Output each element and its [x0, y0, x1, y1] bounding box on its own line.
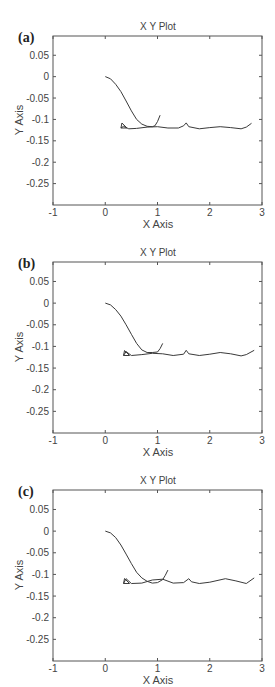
plot-area: -101230.050-0.05-0.1-0.15-0.2-0.25: [0, 0, 275, 687]
x-tick-label: -1: [49, 663, 58, 674]
axes-frame: [53, 490, 262, 661]
y-tick-label: 0: [43, 526, 49, 537]
y-tick-label: -0.05: [26, 547, 49, 558]
x-tick-label: 2: [207, 663, 213, 674]
x-tick-label: 1: [155, 663, 161, 674]
y-tick-label: 0.05: [30, 504, 50, 515]
x-tick-label: 3: [259, 663, 265, 674]
series-line-trajectory-1: [105, 531, 168, 583]
y-tick-label: -0.2: [32, 612, 50, 623]
y-tick-label: -0.15: [26, 591, 49, 602]
x-tick-label: 0: [102, 663, 108, 674]
y-tick-label: -0.25: [26, 634, 49, 645]
plot-panel-c: X Y Plot(c)Y AxisX Axis-101230.050-0.05-…: [0, 0, 275, 687]
y-tick-label: -0.1: [32, 569, 50, 580]
